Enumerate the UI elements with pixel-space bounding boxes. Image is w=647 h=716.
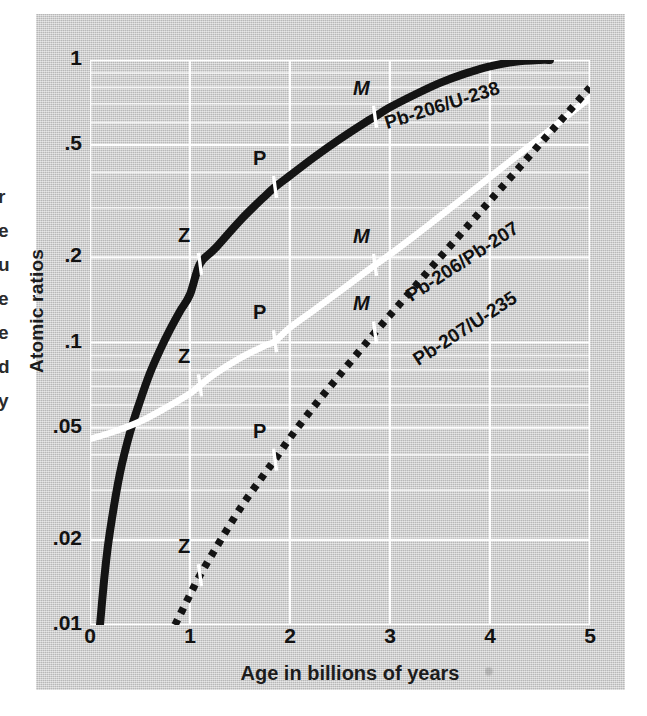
curve-marker-label-P: P [253,420,266,443]
y-tick-label: .5 [26,131,82,155]
marker-tick-Z [199,374,202,396]
y-tick-label: 1 [26,46,82,70]
marker-tick-Z [199,564,202,586]
curve-marker-label-Z: Z [178,535,190,558]
curve-marker-label-P: P [253,301,266,324]
curve-marker-label-M: M [353,292,370,315]
marker-tick-M [374,321,377,343]
marker-tick-P [274,330,277,352]
x-axis-title: Age in billions of years [170,662,530,685]
series-line-pb-206-pb-207 [90,98,590,439]
plot-area [90,60,590,625]
curve-marker-label-Z: Z [178,224,190,247]
figure-root: r e u e e d y Atomic ratios Age in billi… [0,0,647,716]
marker-tick-P [274,176,277,198]
x-tick-label: 4 [470,624,510,648]
x-tick-label: 3 [370,624,410,648]
paper-speck [485,667,494,678]
curve-marker-label-Z: Z [178,345,190,368]
y-axis-tick-labels: 1.5.2.1.05.02.01 [20,0,82,716]
marker-tick-M [374,106,377,128]
y-tick-label: .05 [26,414,82,438]
x-tick-label: 1 [170,624,210,648]
y-tick-label: .1 [26,329,82,353]
chart-svg [90,60,590,625]
x-tick-label: 0 [70,624,110,648]
y-tick-label: .2 [26,243,82,267]
curve-marker-label-P: P [253,147,266,170]
x-axis-tick-labels: 012345 [0,624,647,664]
curve-marker-label-M: M [353,225,370,248]
x-tick-label: 2 [270,624,310,648]
curve-marker-label-M: M [353,77,370,100]
x-tick-label: 5 [570,624,610,648]
y-tick-label: .02 [26,526,82,550]
